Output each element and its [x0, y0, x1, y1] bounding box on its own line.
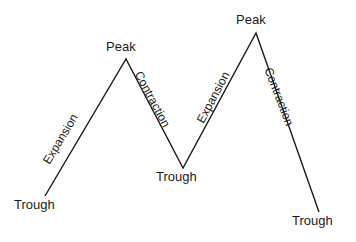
- vertex-label-peak-1: Peak: [106, 40, 136, 53]
- business-cycle-polyline: [45, 33, 319, 212]
- business-cycle-diagram: Trough Peak Trough Peak Trough Expansion…: [0, 0, 356, 242]
- vertex-label-trough-2: Trough: [156, 170, 197, 183]
- vertex-label-trough-3: Trough: [292, 214, 333, 227]
- vertex-label-peak-2: Peak: [236, 13, 266, 26]
- vertex-label-trough-1: Trough: [14, 198, 55, 211]
